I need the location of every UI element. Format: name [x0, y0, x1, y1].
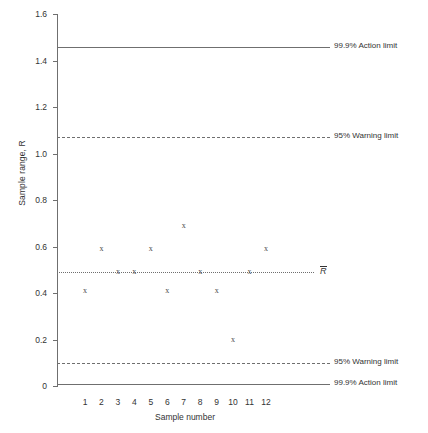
- data-point: x: [245, 268, 255, 276]
- reference-line-lower-action: [57, 384, 330, 385]
- y-tick-mark: [53, 340, 58, 341]
- y-tick-label: 1.0: [13, 150, 47, 159]
- data-point: x: [179, 222, 189, 230]
- x-axis-title: Sample number: [85, 412, 285, 422]
- y-tick-mark: [53, 154, 58, 155]
- reference-line-upper-action: [57, 47, 330, 48]
- y-tick-label: 1.6: [13, 10, 47, 19]
- y-tick-mark: [53, 14, 58, 15]
- data-point: x: [212, 287, 222, 295]
- y-axis-title: Sample range, R: [17, 103, 27, 243]
- x-tick-label: 7: [175, 398, 193, 407]
- reference-line-center-line: [57, 272, 314, 273]
- x-tick-label: 8: [191, 398, 209, 407]
- y-tick-mark: [53, 200, 58, 201]
- data-point: x: [261, 245, 271, 253]
- x-tick-label: 3: [109, 398, 127, 407]
- r-bar-symbol: R: [320, 266, 327, 276]
- y-tick-label: 0.6: [13, 243, 47, 252]
- x-tick-label: 9: [208, 398, 226, 407]
- x-tick-label: 10: [224, 398, 242, 407]
- y-tick-mark: [53, 61, 58, 62]
- y-tick-label: 1.2: [13, 103, 47, 112]
- x-tick-label: 6: [158, 398, 176, 407]
- x-tick-label: 12: [257, 398, 275, 407]
- x-tick-label: 4: [125, 398, 143, 407]
- data-point: x: [228, 336, 238, 344]
- data-point: x: [113, 268, 123, 276]
- reference-label-lower-warning: 95% Warning limit: [334, 358, 398, 366]
- y-tick-label: 0.4: [13, 289, 47, 298]
- reference-label-lower-action: 99.9% Action limit: [334, 379, 397, 387]
- reference-label-upper-warning: 95% Warning limit: [334, 132, 398, 140]
- y-tick-mark: [53, 293, 58, 294]
- data-point: x: [80, 287, 90, 295]
- x-axis-title-text: Sample number: [155, 412, 215, 422]
- y-tick-label: 0.8: [13, 196, 47, 205]
- y-tick-mark: [53, 247, 58, 248]
- reference-label-upper-action: 99.9% Action limit: [334, 42, 397, 50]
- reference-label-center-line: R: [320, 266, 327, 276]
- x-tick-label: 11: [241, 398, 259, 407]
- x-tick-label: 2: [92, 398, 110, 407]
- y-tick-mark: [53, 386, 58, 387]
- reference-line-upper-warning: [57, 137, 330, 138]
- x-tick-label: 5: [142, 398, 160, 407]
- data-point: x: [195, 268, 205, 276]
- y-tick-label: 0: [13, 382, 47, 391]
- y-tick-label: 1.4: [13, 57, 47, 66]
- range-control-chart: Sample range, R 00.20.40.60.81.01.21.41.…: [0, 0, 428, 433]
- data-point: x: [162, 287, 172, 295]
- data-point: x: [96, 245, 106, 253]
- data-point: x: [129, 268, 139, 276]
- y-tick-mark: [53, 107, 58, 108]
- x-tick-label: 1: [76, 398, 94, 407]
- data-point: x: [146, 245, 156, 253]
- reference-line-lower-warning: [57, 363, 330, 364]
- y-tick-label: 0.2: [13, 336, 47, 345]
